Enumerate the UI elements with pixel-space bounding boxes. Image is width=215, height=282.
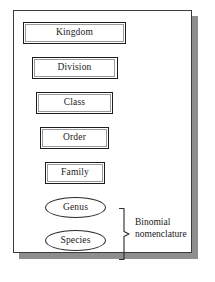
rank-box-inner: Family [47,164,102,181]
rank-box-kingdom[interactable]: Kingdom [23,22,126,44]
rank-label-genus: Genus [63,203,88,213]
rank-label-order: Order [63,133,86,143]
rank-box-family[interactable]: Family [45,162,105,184]
binomial-nomenclature-annotation: Binomial nomenclature [135,217,205,240]
rank-box-inner: Class [38,94,110,111]
rank-label-division: Division [58,63,92,73]
rank-box-order[interactable]: Order [40,127,109,149]
rank-label-class: Class [64,98,85,108]
diagram-card: Kingdom Division Class Order Family [13,10,192,253]
rank-box-class[interactable]: Class [36,92,113,114]
curly-brace-icon [118,207,132,261]
diagram-canvas: Kingdom Division Class Order Family [0,0,215,282]
annotation-line-1: Binomial [135,217,205,229]
annotation-line-2: nomenclature [135,229,205,241]
rank-label-family: Family [61,168,89,178]
rank-ellipse-genus[interactable]: Genus [45,197,106,218]
rank-box-division[interactable]: Division [32,57,118,79]
rank-label-species: Species [60,236,90,246]
rank-box-inner: Division [34,59,115,76]
rank-box-inner: Kingdom [25,24,123,41]
rank-label-kingdom: Kingdom [56,28,93,38]
rank-ellipse-species[interactable]: Species [45,230,106,251]
rank-box-inner: Order [42,129,106,146]
